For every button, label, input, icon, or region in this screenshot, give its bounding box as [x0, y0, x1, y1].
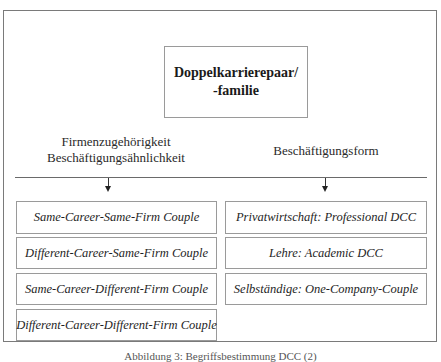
- diagram-node: Same-Career-Different-Firm Couple: [16, 273, 217, 305]
- root-node-line-2: -familie: [174, 82, 298, 100]
- diagram-node: Selbständige: One-Company-Couple: [225, 273, 427, 305]
- root-node: Doppelkarrierepaar/ -familie: [164, 46, 308, 118]
- category-label-line: Beschäftigungsform: [225, 143, 427, 159]
- horizontal-divider-line: [15, 177, 427, 178]
- category-label-line: Firmenzugehörigkeit: [16, 134, 216, 150]
- category-label-firm-affiliation: Firmenzugehörigkeit Beschäftigungsähnlic…: [16, 134, 216, 166]
- diagram-node: Different-Career-Same-Firm Couple: [16, 237, 217, 269]
- category-label-employment-form: Beschäftigungsform: [225, 143, 427, 159]
- root-node-line-1: Doppelkarrierepaar/: [174, 64, 298, 82]
- diagram-node: Privatwirtschaft: Professional DCC: [225, 201, 427, 234]
- diagram-node: Lehre: Academic DCC: [225, 237, 427, 269]
- diagram-node: Different-Career-Different-Firm Couple: [16, 309, 217, 341]
- figure-caption: Abbildung 3: Begriffsbestimmung DCC (2): [0, 350, 441, 362]
- category-label-line: Beschäftigungsähnlichkeit: [16, 150, 216, 166]
- diagram-node: Same-Career-Same-Firm Couple: [16, 201, 217, 234]
